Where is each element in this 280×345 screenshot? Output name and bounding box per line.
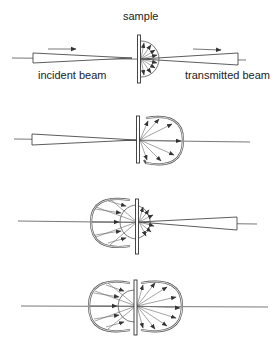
transmitted-beam-label: transmitted beam: [185, 69, 270, 81]
incident-beam: [32, 134, 136, 145]
sample-plate: [138, 35, 141, 83]
scatter-rays: [140, 119, 181, 161]
sample-plate: [137, 116, 140, 163]
transmitted-beam: [139, 217, 237, 230]
panel-2: [14, 116, 250, 164]
scattering-diagram: sample incident beam transmitted beam: [0, 0, 280, 345]
incident-beam: [33, 53, 132, 63]
transmitted-beam: [141, 53, 238, 65]
panel-4: [21, 280, 268, 335]
sample-plate: [134, 280, 137, 335]
panel-3: [18, 199, 257, 254]
panel-1: sample incident beam transmitted beam: [12, 10, 270, 83]
sample-label: sample: [123, 10, 158, 22]
transmitted-direction-arrow: [193, 49, 221, 50]
sample-plate: [136, 199, 139, 254]
incident-beam-label: incident beam: [38, 69, 107, 81]
